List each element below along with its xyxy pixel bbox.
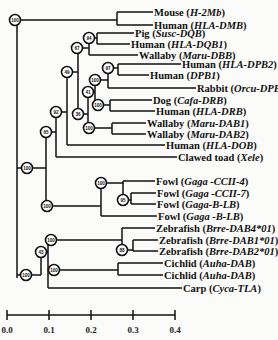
gene-name: Gaga -CCII-7 (185, 188, 246, 199)
species-name: Mouse ( (154, 7, 190, 19)
bootstrap-value: 65 (43, 130, 49, 135)
species-name: Fowl ( (157, 199, 186, 211)
leaf-label: Cichlid (Auha-DAB) (164, 258, 256, 270)
gene-name: Xele (239, 152, 260, 163)
species-name: Cichlid ( (164, 270, 203, 282)
bootstrap-value: 100 (22, 273, 30, 278)
gene-name: Maru-DAB2 (189, 129, 246, 140)
support-node: 100 (84, 123, 95, 134)
support-node: 88 (117, 245, 128, 256)
gene-name: Gaga-B-LB (185, 199, 236, 210)
leaf-label: Fowl (Gaga -B-LB) (158, 211, 244, 223)
gene-name: HLA-DRB (195, 106, 243, 117)
leaf-label: Human (HLA-DRB) (156, 106, 247, 118)
gene-name: Cafa-DRB (177, 95, 223, 106)
gene-name: HLA-DPB2 (221, 59, 274, 70)
support-node: 100 (46, 235, 57, 246)
support-node: 67 (72, 43, 83, 54)
gene-name: H-2Mb (189, 7, 222, 18)
species-name: Zebrafish ( (156, 223, 206, 235)
support-node: 100 (93, 100, 104, 111)
bootstrap-value: 92 (53, 110, 59, 115)
support-node: 100 (90, 75, 101, 86)
support-node: 100 (10, 15, 21, 26)
leaf-label: Fowl (Gaga -CCII-4) (156, 176, 249, 188)
support-node: 97 (103, 63, 114, 74)
leaf-label: Fowl (Gaga-B-LB) (157, 199, 240, 211)
bootstrap-value: 95 (120, 198, 126, 203)
bootstrap-value: 100 (91, 78, 99, 83)
gene-name: DPB1 (189, 70, 216, 81)
leaf-label: Human (HLA-DOB) (166, 140, 257, 152)
scale-tick-label: 0.3 (127, 325, 139, 335)
species-name: Wallaby ( (139, 50, 183, 62)
scale-bar: 0.00.10.20.30.4 (1, 310, 181, 335)
species-name: Fowl ( (156, 176, 185, 188)
bootstrap-value: 100 (43, 204, 51, 209)
support-node: 49 (62, 67, 73, 78)
leaf-label: Zebrafish (Brre-DAB4*01) (156, 223, 276, 235)
bootstrap-value: 41 (85, 90, 91, 95)
bootstrap-value: 36 (75, 112, 81, 117)
bootstrap-value: 100 (47, 238, 55, 243)
gene-name: Susc-DQB (156, 28, 202, 39)
support-node: 94 (84, 33, 95, 44)
species-name: Zebrafish ( (159, 246, 209, 258)
gene-name: Maru-DAB1 (189, 118, 245, 129)
support-node: 36 (73, 109, 84, 120)
scale-tick-label: 0.2 (85, 325, 97, 335)
bootstrap-value: 100 (50, 268, 58, 273)
bootstrap-value: 100 (11, 18, 19, 23)
scale-tick-label: 0.1 (43, 325, 55, 335)
gene-name: HLA-DOB (205, 140, 253, 151)
bootstrap-value: 100 (23, 166, 31, 171)
bootstrap-value: 100 (85, 126, 93, 131)
species-name: Cichlid ( (164, 258, 203, 270)
bootstrap-value: 100 (94, 103, 102, 108)
support-node: 41 (83, 87, 94, 98)
gene-name: Auha-DAB (202, 258, 252, 269)
bootstrap-value: 88 (119, 248, 125, 253)
leaf-label: Mouse (H-2Mb) (154, 7, 225, 19)
gene-name: Cyca-TLA (212, 283, 257, 294)
species-name: Clawed toad ( (178, 152, 241, 164)
leaf-label: Clawed toad (Xele) (178, 152, 264, 164)
support-node: 100 (21, 270, 32, 281)
leaf-label: Zebrafish (Brre-DAB2*01) (159, 246, 278, 258)
bootstrap-value: 97 (105, 66, 111, 71)
support-node: 92 (51, 107, 62, 118)
leaf-label: Carp (Cyca-TLA) (183, 283, 261, 295)
phylogenetic-tree: Mouse (H-2Mb)Human (HLA-DMB)Pig (Susc-DQ… (0, 0, 278, 340)
species-name: Human ( (156, 106, 196, 118)
support-node: 100 (22, 163, 33, 174)
scale-tick-label: 0.4 (169, 325, 181, 335)
species-name: Rabbit ( (197, 83, 235, 95)
leaf-label: Human (DPB1) (150, 70, 220, 82)
bootstrap-value: 49 (64, 70, 70, 75)
gene-name: Brre-DAB4*01 (205, 223, 272, 234)
gene-name: HLA-DQB1 (170, 39, 224, 50)
support-node: 65 (41, 127, 52, 138)
scale-tick-label: 0.0 (1, 325, 13, 335)
support-node: 95 (118, 195, 129, 206)
bootstrap-value: 94 (86, 36, 92, 41)
gene-name: Gaga -B-LB (186, 211, 239, 222)
support-node: 100 (42, 201, 53, 212)
gene-name: Brre-DAB1*01 (208, 235, 275, 246)
support-node: 100 (96, 178, 107, 189)
leaf-label: Rabbit (Orcu-DPB) (197, 83, 278, 95)
species-name: Human ( (166, 140, 206, 152)
bootstrap-value: 43 (38, 250, 44, 255)
bootstrap-value: 67 (74, 46, 80, 51)
leaf-label: Cichlid (Auha-DAB) (164, 270, 256, 282)
gene-name: Brre-DAB2*01 (208, 246, 275, 257)
gene-name: Auha-DAB (202, 270, 252, 281)
gene-name: Orcu-DPB (234, 83, 278, 94)
gene-name: Gaga -CCII-4 (184, 176, 244, 187)
species-name: Fowl ( (158, 211, 187, 223)
bootstrap-value: 100 (97, 181, 105, 186)
species-name: Human ( (150, 70, 190, 82)
support-node: 43 (36, 247, 47, 258)
support-node: 100 (49, 265, 60, 276)
species-name: Carp ( (183, 283, 213, 295)
